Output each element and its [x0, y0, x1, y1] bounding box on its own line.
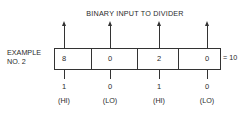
bit-value: 0 — [197, 82, 217, 91]
bit-line — [64, 70, 65, 79]
cell-value: 0 — [197, 54, 217, 63]
arrow-stem — [207, 25, 208, 48]
arrow-stem — [64, 25, 65, 48]
cell-value: 8 — [54, 54, 74, 63]
bit-value: 1 — [149, 82, 169, 91]
level-label: (HI) — [144, 96, 174, 105]
bit-line — [159, 70, 160, 79]
cell-divider — [178, 48, 179, 70]
level-label: (HI) — [49, 96, 79, 105]
level-label: (LO) — [192, 96, 222, 105]
bit-line — [110, 70, 111, 79]
arrow-stem — [159, 25, 160, 48]
diagram-title: BINARY INPUT TO DIVIDER — [60, 9, 210, 18]
cell-divider — [91, 48, 92, 70]
cell-divider — [137, 48, 138, 70]
example-label-line1: EXAMPLE — [7, 48, 41, 57]
equals-total: = 10 — [223, 53, 237, 62]
cell-value: 2 — [149, 54, 169, 63]
bit-line — [207, 70, 208, 79]
bit-value: 0 — [100, 82, 120, 91]
level-label: (LO) — [95, 96, 125, 105]
example-label-line2: NO. 2 — [7, 57, 41, 66]
example-label: EXAMPLE NO. 2 — [7, 48, 41, 66]
arrow-stem — [110, 25, 111, 48]
bit-value: 1 — [54, 82, 74, 91]
cell-value: 0 — [100, 54, 120, 63]
